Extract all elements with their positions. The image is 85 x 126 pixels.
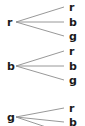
target-node-group-g-1: b [69, 117, 77, 126]
target-node-group-g-0: r [69, 103, 74, 114]
source-node-group-b: b [7, 61, 15, 72]
target-node-group-b-1: b [69, 61, 77, 72]
target-node-group-b-0: r [69, 46, 74, 57]
edge-group-r-2 [16, 22, 64, 36]
target-node-group-r-2: g [69, 31, 77, 42]
fan-mapping-diagram: rrbgbrbggrb [0, 0, 85, 126]
edge-group-b-0 [16, 51, 64, 66]
source-node-group-r: r [7, 17, 12, 28]
target-node-group-b-2: g [69, 75, 77, 86]
edge-group-b-2 [16, 66, 64, 80]
target-node-group-r-1: b [69, 17, 77, 28]
edge-group-r-0 [16, 7, 64, 22]
target-node-group-r-0: r [69, 2, 74, 13]
edge-group-g-0 [16, 108, 64, 117]
source-node-group-g: g [7, 112, 15, 123]
